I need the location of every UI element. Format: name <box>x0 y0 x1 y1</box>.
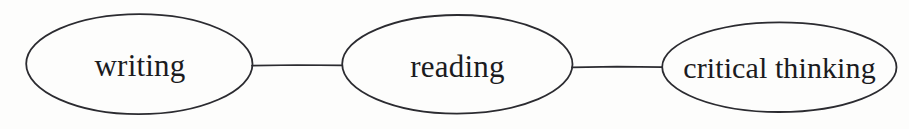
connector-writing-to-reading <box>252 65 342 66</box>
node-label-reading: reading <box>342 51 573 82</box>
node-label-writing: writing <box>26 50 254 81</box>
concept-chain-diagram: writing reading critical thinking <box>0 0 909 129</box>
node-label-critical-thinking: critical thinking <box>662 53 897 83</box>
connector-reading-to-critical-thinking <box>572 67 662 68</box>
